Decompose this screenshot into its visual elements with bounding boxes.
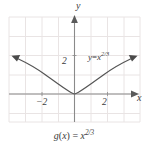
figure-caption: g(x) = x2/3 bbox=[0, 131, 148, 141]
y-axis bbox=[71, 15, 78, 122]
curve-equation-label: y=x2/3 bbox=[88, 53, 109, 62]
x-tick-label-negative-2: −2 bbox=[36, 98, 47, 108]
caption-equals: = bbox=[72, 130, 78, 141]
x-tick-label-2: 2 bbox=[102, 98, 107, 108]
curve-label-exponent: 2/3 bbox=[101, 50, 109, 57]
caption-close-paren: ) bbox=[67, 130, 70, 141]
y-tick-label-2: 2 bbox=[62, 57, 67, 67]
x-axis-label: x bbox=[137, 93, 141, 103]
graph-plot bbox=[0, 0, 148, 151]
curve-left-arrow-icon bbox=[12, 55, 21, 61]
figure-container: y x −2 2 2 y=x2/3 g(x) = x2/3 bbox=[0, 0, 148, 151]
caption-exponent: 2/3 bbox=[85, 129, 94, 137]
y-axis-arrow-icon bbox=[71, 15, 78, 23]
curve-right-arrow-icon bbox=[129, 55, 138, 61]
y-axis-label: y bbox=[76, 1, 80, 11]
